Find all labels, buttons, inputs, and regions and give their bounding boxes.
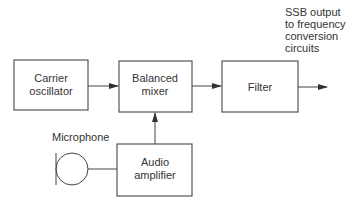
svg-text:circuits: circuits bbox=[285, 42, 320, 54]
filter-label: Filter bbox=[248, 81, 273, 93]
microphone-label: Microphone bbox=[52, 131, 109, 143]
carrier-label-line1: Carrier bbox=[34, 72, 68, 84]
microphone-icon bbox=[56, 153, 117, 185]
svg-text:SSB output: SSB output bbox=[285, 6, 341, 18]
carrier-label-line2: oscillator bbox=[29, 85, 73, 97]
audio-amplifier-block: Audio amplifier bbox=[117, 144, 192, 196]
audio-label-line1: Audio bbox=[141, 156, 169, 168]
svg-text:to frequency: to frequency bbox=[285, 18, 346, 30]
mixer-label-line2: mixer bbox=[142, 85, 169, 97]
output-label: SSB output to frequency conversion circu… bbox=[285, 6, 346, 54]
svg-text:conversion: conversion bbox=[285, 30, 338, 42]
mixer-label-line1: Balanced bbox=[132, 72, 178, 84]
balanced-mixer-block: Balanced mixer bbox=[119, 61, 192, 112]
ssb-transmitter-diagram: Carrier oscillator Balanced mixer Filter… bbox=[0, 0, 349, 204]
audio-label-line2: amplifier bbox=[134, 169, 176, 181]
filter-block: Filter bbox=[222, 61, 298, 112]
carrier-oscillator-block: Carrier oscillator bbox=[14, 60, 88, 110]
